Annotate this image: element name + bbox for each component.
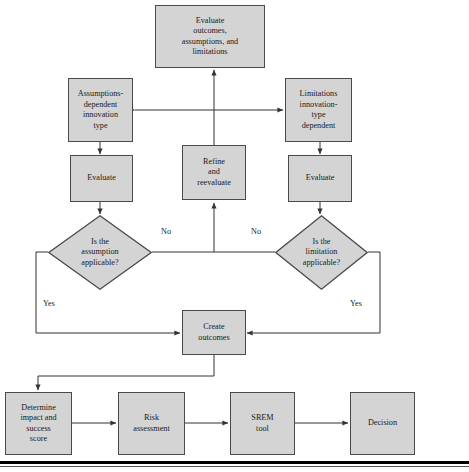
node-limitations-innovation-type-dependent-label: Limitations innovation- type dependent	[300, 89, 338, 131]
node-srem-tool[interactable]: SREM tool	[230, 392, 295, 455]
node-create-outcomes[interactable]: Create outcomes	[182, 310, 246, 355]
node-assumptions-dependent-innovation-type[interactable]: Assumptions- dependent innovation type	[68, 78, 133, 142]
bottom-divider-thin	[0, 466, 469, 467]
node-srem-tool-label: SREM tool	[251, 413, 273, 434]
node-create-outcomes-label: Create outcomes	[198, 322, 229, 343]
edge-create-determine	[38, 355, 214, 390]
node-assumptions-dependent-innovation-type-label: Assumptions- dependent innovation type	[78, 89, 124, 131]
node-decision[interactable]: Decision	[350, 392, 415, 455]
node-evaluate-right[interactable]: Evaluate	[288, 155, 352, 202]
node-limitation-applicable-decision-label: Is the limitation applicable?	[303, 237, 340, 269]
node-assumption-applicable-decision[interactable]: Is the assumption applicable?	[48, 215, 152, 290]
node-determine-impact-success-score-label: Determine impact and success score	[20, 403, 56, 445]
node-limitations-innovation-type-dependent[interactable]: Limitations innovation- type dependent	[285, 78, 352, 142]
node-refine-and-reevaluate[interactable]: Refine and reevaluate	[182, 145, 246, 200]
node-risk-assessment[interactable]: Risk assessment	[118, 392, 185, 455]
node-determine-impact-success-score[interactable]: Determine impact and success score	[5, 392, 72, 455]
node-evaluate-left-label: Evaluate	[87, 173, 116, 184]
flowchart-canvas: Evaluate outcomes, assumptions, and limi…	[0, 0, 469, 472]
node-evaluate-right-label: Evaluate	[306, 173, 335, 184]
node-refine-and-reevaluate-label: Refine and reevaluate	[197, 157, 231, 189]
edge-label-yes-left: Yes	[43, 299, 55, 308]
edge-label-no-right: No	[251, 227, 261, 236]
node-decision-label: Decision	[368, 418, 397, 429]
node-limitation-applicable-decision[interactable]: Is the limitation applicable?	[275, 215, 368, 290]
node-evaluate-outcomes-label: Evaluate outcomes, assumptions, and limi…	[182, 16, 238, 58]
edge-label-no-left: No	[161, 227, 171, 236]
bottom-divider-thick	[0, 461, 469, 464]
node-assumption-applicable-decision-label: Is the assumption applicable?	[81, 237, 118, 269]
node-evaluate-left[interactable]: Evaluate	[70, 155, 133, 202]
node-risk-assessment-label: Risk assessment	[133, 413, 169, 434]
node-evaluate-outcomes[interactable]: Evaluate outcomes, assumptions, and limi…	[155, 5, 265, 68]
edge-label-yes-right: Yes	[350, 299, 362, 308]
